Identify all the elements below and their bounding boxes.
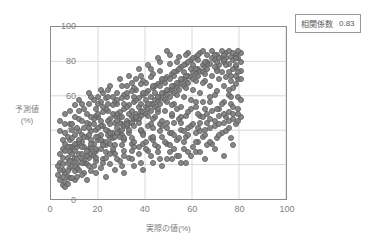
correlation-value: 0.83: [339, 19, 355, 28]
scatter-point: [126, 127, 132, 133]
scatter-point: [207, 99, 213, 105]
scatter-point: [162, 108, 168, 114]
scatter-point: [60, 174, 66, 180]
scatter-point: [230, 142, 236, 148]
scatter-point: [185, 109, 191, 115]
scatter-point: [140, 132, 146, 138]
scatter-point: [155, 106, 161, 112]
scatter-point: [150, 116, 156, 122]
scatter-point: [228, 94, 234, 100]
x-axis-tick-label: 100: [272, 205, 302, 214]
y-axis-tick-label: 0: [36, 196, 76, 205]
scatter-point: [235, 118, 241, 124]
scatter-point: [167, 142, 173, 148]
correlation-label: 相関係数: [301, 18, 333, 29]
scatter-point: [226, 87, 232, 93]
scatter-point: [207, 125, 213, 131]
scatter-point: [212, 146, 218, 152]
scatter-point: [136, 120, 142, 126]
scatter-point: [103, 174, 109, 180]
scatter-point: [223, 62, 229, 68]
scatter-point: [178, 104, 184, 110]
scatter-point: [121, 170, 127, 176]
scatter-point: [216, 132, 222, 138]
y-axis-title-line2: (%): [8, 115, 46, 126]
scatter-point: [202, 156, 208, 162]
scatter-point: [235, 69, 241, 75]
scatter-point: [167, 149, 173, 155]
y-axis-title-line1: 予測値: [8, 104, 46, 115]
scatter-point: [169, 156, 175, 162]
scatter-point: [174, 59, 180, 65]
scatter-point: [95, 101, 101, 107]
x-axis-tick-label: 0: [35, 205, 65, 214]
scatter-point: [181, 94, 187, 100]
scatter-point: [67, 108, 73, 114]
scatter-point: [129, 156, 135, 162]
scatter-point: [129, 108, 135, 114]
scatter-point: [81, 134, 87, 140]
scatter-point: [181, 69, 187, 75]
scatter-point: [183, 85, 189, 91]
scatter-point: [159, 163, 165, 169]
scatter-point: [148, 153, 154, 159]
scatter-point: [185, 132, 191, 138]
scatter-point: [164, 99, 170, 105]
scatter-point: [143, 146, 149, 152]
scatter-point: [93, 170, 99, 176]
scatter-point: [188, 97, 194, 103]
scatter-point: [148, 74, 154, 80]
plot-area: [50, 26, 287, 200]
scatter-point: [98, 118, 104, 124]
y-axis-tick-label: 20: [36, 161, 76, 170]
scatter-point: [207, 139, 213, 145]
x-axis-tick-label: 20: [82, 205, 112, 214]
y-axis-tick-label: 80: [36, 57, 76, 66]
scatter-point: [207, 94, 213, 100]
scatter-point: [138, 73, 144, 79]
scatter-point: [112, 167, 118, 173]
correlation-annotation-box: 相関係数 0.83: [295, 14, 361, 33]
scatter-point: [169, 111, 175, 117]
scatter-point: [216, 76, 222, 82]
scatter-point: [136, 144, 142, 150]
scatter-point: [181, 139, 187, 145]
scatter-point: [197, 149, 203, 155]
scatter-point: [171, 73, 177, 79]
scatter-point: [110, 111, 116, 117]
scatter-point: [79, 144, 85, 150]
y-axis-tick-label: 100: [36, 22, 76, 31]
scatter-point: [136, 66, 142, 72]
scatter-point: [72, 102, 78, 108]
scatter-point: [188, 66, 194, 72]
scatter-point: [157, 156, 163, 162]
scatter-point: [107, 83, 113, 89]
scatter-point: [105, 94, 111, 100]
scatter-point: [65, 181, 71, 187]
scatter-point: [228, 135, 234, 141]
scatter-point: [212, 118, 218, 124]
scatter-point: [131, 163, 137, 169]
scatter-point: [157, 68, 163, 74]
scatter-point: [176, 153, 182, 159]
scatter-point: [129, 80, 135, 86]
x-axis-tick-label: 80: [225, 205, 255, 214]
scatter-point: [214, 88, 220, 94]
scatter-point: [169, 83, 175, 89]
scatter-point: [117, 76, 123, 82]
scatter-point: [93, 146, 99, 152]
scatter-point: [74, 174, 80, 180]
scatter-point: [138, 160, 144, 166]
scatter-point: [195, 52, 201, 58]
scatter-point: [221, 153, 227, 159]
x-axis-title: 実際の値(%): [50, 222, 287, 233]
scatter-point: [200, 99, 206, 105]
scatter-point: [93, 155, 99, 161]
y-axis-tick-label: 60: [36, 92, 76, 101]
scatter-point: [124, 90, 130, 96]
scatter-point: [93, 106, 99, 112]
scatter-point: [233, 81, 239, 87]
scatter-point: [84, 177, 90, 183]
scatter-point: [202, 71, 208, 77]
scatter-point: [65, 144, 71, 150]
